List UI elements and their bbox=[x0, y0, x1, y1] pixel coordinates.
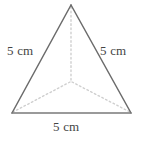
hidden-edges-group bbox=[13, 7, 130, 112]
solid-edge-right bbox=[71, 5, 131, 113]
pyramid-figure: 5 cm 5 cm 5 cm bbox=[0, 0, 141, 143]
solid-edge-left bbox=[12, 5, 71, 113]
base-edge-length-label: 5 cm bbox=[53, 120, 79, 133]
right-edge-length-label: 5 cm bbox=[100, 44, 126, 57]
left-edge-length-label: 5 cm bbox=[7, 44, 33, 57]
